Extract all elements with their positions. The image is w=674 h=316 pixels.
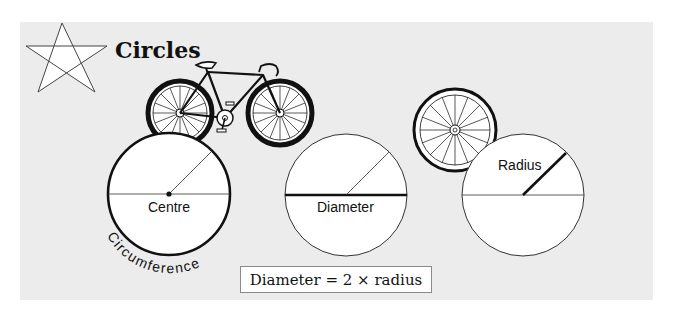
circle-diameter-diagram: Diameter <box>285 134 407 256</box>
centre-point <box>166 191 171 196</box>
page-title: Circles <box>115 37 201 63</box>
circle-centre-diagram: Centre Circumference <box>104 133 230 276</box>
formula-text: Diameter = 2 × radius <box>250 271 423 289</box>
circle-radius-diagram: Radius <box>462 134 584 256</box>
diameter-label: Diameter <box>317 199 374 215</box>
centre-label: Centre <box>148 199 190 215</box>
radius-label: Radius <box>498 157 542 173</box>
star-icon <box>26 23 107 92</box>
formula-box: Diameter = 2 × radius <box>240 266 432 293</box>
